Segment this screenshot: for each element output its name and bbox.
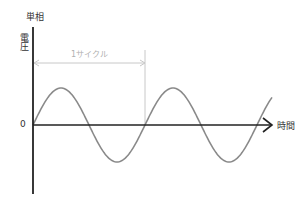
- y-axis-label: 電圧: [18, 33, 28, 51]
- sine-wave-diagram: [0, 0, 307, 203]
- diagram-title: 単相: [26, 13, 44, 22]
- x-axis-label: 時間: [277, 122, 295, 131]
- cycle-label: 1サイクル: [71, 51, 108, 59]
- cycle-marker: [34, 50, 145, 125]
- origin-label: 0: [20, 120, 26, 129]
